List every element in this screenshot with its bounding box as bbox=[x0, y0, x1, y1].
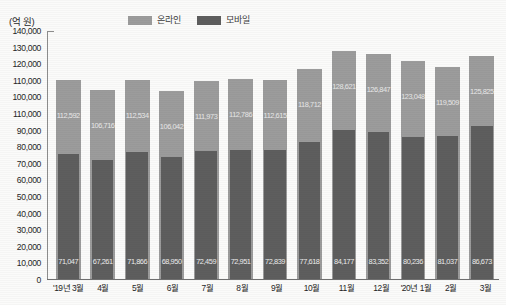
bar-column: 112,78672,951 bbox=[223, 31, 257, 280]
bar-column: 126,84783,352 bbox=[361, 31, 395, 280]
bar-value-label-mobile: 72,839 bbox=[265, 258, 285, 266]
y-tick-label: 30,000 bbox=[17, 226, 41, 235]
bar-value-label-online: 126,847 bbox=[367, 86, 391, 94]
x-tick-label: 5월 bbox=[121, 283, 156, 301]
x-tick-label: 3월 bbox=[468, 283, 503, 301]
bar-value-label-mobile: 80,236 bbox=[403, 258, 423, 266]
y-tick-label: 0 bbox=[37, 276, 41, 285]
bar-value-label-online: 106,716 bbox=[91, 122, 115, 130]
x-tick-label: '19년 3월 bbox=[51, 283, 86, 301]
legend-label: 온라인 bbox=[157, 16, 180, 25]
y-tick-label: 80,000 bbox=[17, 143, 41, 152]
bar-value-label-mobile: 71,047 bbox=[58, 258, 78, 266]
bar-value-label-online: 112,534 bbox=[126, 112, 149, 120]
y-axis-tick-labels: 140,000130,000120,000110,000100,000110,0… bbox=[0, 31, 44, 280]
x-tick-label: '20년 1월 bbox=[399, 283, 434, 301]
x-tick-label: 12월 bbox=[364, 283, 399, 301]
y-tick-label: 20,000 bbox=[17, 242, 41, 251]
x-tick-label: 4월 bbox=[86, 283, 121, 301]
bar-value-label-mobile: 77,618 bbox=[300, 258, 320, 266]
x-tick-label: 2월 bbox=[433, 283, 468, 301]
bar-column: 128,62184,177 bbox=[327, 31, 361, 280]
bar-value-label-mobile: 68,950 bbox=[162, 258, 182, 266]
y-tick-label: 70,000 bbox=[17, 159, 41, 168]
legend-swatch-icon bbox=[197, 16, 221, 25]
x-axis-tick-labels: '19년 3월4월5월6월7월8월9월10월11월12월'20년 1월2월3월 bbox=[47, 283, 503, 301]
y-tick-label: 110,000 bbox=[13, 76, 41, 85]
bar-column: 111,97372,459 bbox=[189, 31, 223, 280]
y-tick-label: 50,000 bbox=[17, 193, 41, 202]
bar-value-label-mobile: 72,951 bbox=[231, 258, 251, 266]
x-tick-label: 6월 bbox=[155, 283, 190, 301]
x-tick-label: 9월 bbox=[260, 283, 295, 301]
bar-column: 112,59271,047 bbox=[51, 31, 85, 280]
y-tick-label: 120,000 bbox=[12, 60, 41, 69]
legend-entry-모바일: 모바일 bbox=[197, 16, 249, 25]
y-tick-label: 90,000 bbox=[17, 126, 41, 135]
bar-value-label-mobile: 86,673 bbox=[472, 258, 492, 266]
x-tick-label: 7월 bbox=[190, 283, 225, 301]
y-tick-label: 40,000 bbox=[17, 209, 41, 218]
y-tick-label: 140,000 bbox=[12, 27, 41, 36]
y-tick-label: 110,000 bbox=[13, 110, 41, 119]
bar-series-group: 112,59271,047106,71667,261112,53471,8661… bbox=[47, 31, 499, 280]
bar-value-label-online: 111,973 bbox=[195, 113, 217, 121]
y-tick-label: 10,000 bbox=[17, 259, 41, 268]
bar-value-label-online: 112,615 bbox=[264, 112, 287, 120]
x-tick-label: 8월 bbox=[225, 283, 260, 301]
bar-value-label-online: 119,509 bbox=[436, 99, 459, 107]
bar-column: 118,71277,618 bbox=[292, 31, 326, 280]
bar-value-label-mobile: 72,459 bbox=[196, 258, 216, 266]
bar-value-label-mobile: 83,352 bbox=[369, 258, 389, 266]
bar-value-label-online: 123,048 bbox=[401, 93, 425, 101]
bar-column: 106,71667,261 bbox=[85, 31, 119, 280]
bar-column: 112,53471,866 bbox=[120, 31, 154, 280]
legend-entry-온라인: 온라인 bbox=[128, 16, 180, 25]
bar-column: 119,50981,037 bbox=[430, 31, 464, 280]
chart-legend: 온라인모바일 bbox=[128, 13, 250, 27]
bar-value-label-mobile: 71,866 bbox=[127, 258, 147, 266]
legend-swatch-icon bbox=[128, 16, 152, 25]
bar-value-label-online: 128,621 bbox=[332, 83, 356, 91]
bar-column: 125,82586,673 bbox=[465, 31, 499, 280]
bar-column: 112,61572,839 bbox=[258, 31, 292, 280]
bar-value-label-online: 112,786 bbox=[229, 111, 252, 119]
x-axis-line bbox=[47, 279, 499, 280]
bar-chart: (억 원) 온라인모바일 140,000130,000120,000110,00… bbox=[0, 0, 506, 305]
bar-value-label-mobile: 67,261 bbox=[93, 258, 113, 266]
bar-value-label-online: 125,825 bbox=[470, 88, 494, 96]
bar-value-label-mobile: 81,037 bbox=[437, 258, 457, 266]
x-tick-label: 10월 bbox=[294, 283, 329, 301]
x-tick-label: 11월 bbox=[329, 283, 364, 301]
bar-value-label-mobile: 84,177 bbox=[334, 258, 354, 266]
y-tick-label: 100,000 bbox=[12, 93, 41, 102]
bar-column: 106,04268,950 bbox=[154, 31, 188, 280]
plot-area: 112,59271,047106,71667,261112,53471,8661… bbox=[47, 31, 499, 280]
y-tick-label: 60,000 bbox=[17, 176, 41, 185]
bar-column: 123,04880,236 bbox=[396, 31, 430, 280]
bar-value-label-online: 112,592 bbox=[57, 112, 80, 120]
bar-value-label-online: 118,712 bbox=[298, 101, 321, 109]
bar-value-label-online: 106,042 bbox=[160, 123, 184, 131]
legend-label: 모바일 bbox=[226, 16, 249, 25]
y-tick-label: 130,000 bbox=[12, 43, 41, 52]
